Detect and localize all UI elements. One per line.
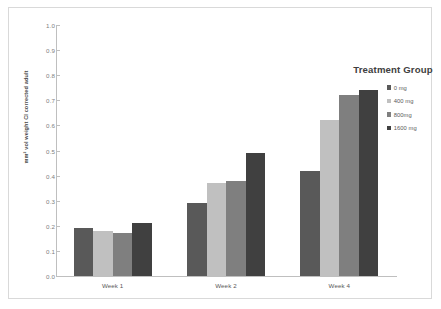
y-axis-tick-label: 0.8 bbox=[9, 72, 55, 79]
legend-item[interactable]: 0 mg bbox=[387, 84, 441, 91]
bar bbox=[187, 203, 207, 276]
y-axis-tick-label: 0.2 bbox=[9, 222, 55, 229]
x-axis-label: Week 1 bbox=[56, 282, 169, 289]
y-axis-tick-label: 0.1 bbox=[9, 247, 55, 254]
y-axis-tick-label: 1.0 bbox=[9, 22, 55, 29]
y-axis-tick-label: 0.0 bbox=[9, 273, 55, 280]
bar bbox=[207, 183, 227, 276]
bar bbox=[93, 231, 113, 276]
chart-legend: Treatment Group 0 mg400 mg800mg1600 mg bbox=[345, 64, 441, 138]
legend-swatch-icon bbox=[387, 85, 391, 89]
legend-item[interactable]: 1600 mg bbox=[387, 125, 441, 132]
legend-swatch-icon bbox=[387, 112, 391, 116]
legend-item[interactable]: 400 mg bbox=[387, 98, 441, 105]
legend-title: Treatment Group bbox=[345, 64, 441, 75]
legend-rows: 0 mg400 mg800mg1600 mg bbox=[345, 84, 441, 132]
x-axis-label: Week 4 bbox=[283, 282, 396, 289]
legend-item-label: 400 mg bbox=[394, 98, 414, 104]
bar bbox=[246, 153, 266, 276]
legend-item-label: 800mg bbox=[394, 112, 412, 118]
y-axis-tick-mark bbox=[57, 276, 60, 277]
legend-swatch-icon bbox=[387, 126, 391, 130]
legend-item[interactable]: 800mg bbox=[387, 111, 441, 118]
y-axis-tick-label: 0.3 bbox=[9, 197, 55, 204]
legend-item-label: 1600 mg bbox=[394, 125, 417, 131]
bar-group bbox=[300, 25, 378, 276]
chart-frame: mm² vol weight CI corrected adult 1.00.9… bbox=[8, 7, 432, 299]
bar bbox=[226, 181, 246, 276]
bar-group bbox=[74, 25, 152, 276]
y-axis-tick-label: 0.4 bbox=[9, 172, 55, 179]
y-axis-tick-label: 0.9 bbox=[9, 47, 55, 54]
y-axis-tick-label: 0.5 bbox=[9, 147, 55, 154]
bar bbox=[300, 171, 320, 276]
y-axis-tick-label: 0.7 bbox=[9, 97, 55, 104]
x-axis-label: Week 2 bbox=[169, 282, 282, 289]
x-axis-line bbox=[56, 276, 397, 277]
bar bbox=[320, 120, 340, 276]
legend-swatch-icon bbox=[387, 99, 391, 103]
y-axis-tick-label: 0.6 bbox=[9, 122, 55, 129]
plot-area bbox=[56, 25, 396, 276]
bar bbox=[113, 233, 133, 276]
bar bbox=[132, 223, 152, 276]
bar bbox=[74, 228, 94, 276]
bar-group bbox=[187, 25, 265, 276]
legend-item-label: 0 mg bbox=[394, 85, 407, 91]
